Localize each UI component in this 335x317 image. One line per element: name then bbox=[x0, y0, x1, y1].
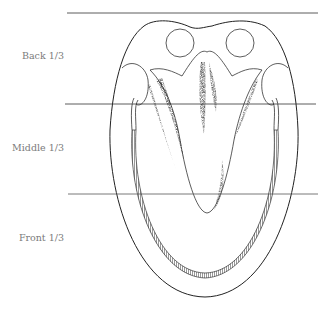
bar-right bbox=[262, 64, 288, 105]
hoof-diagram bbox=[0, 0, 335, 317]
bulb-left bbox=[166, 29, 194, 57]
bar-left bbox=[122, 64, 148, 105]
bulb-right bbox=[226, 29, 254, 57]
heel-bulbs bbox=[144, 21, 265, 28]
frog bbox=[150, 51, 262, 213]
